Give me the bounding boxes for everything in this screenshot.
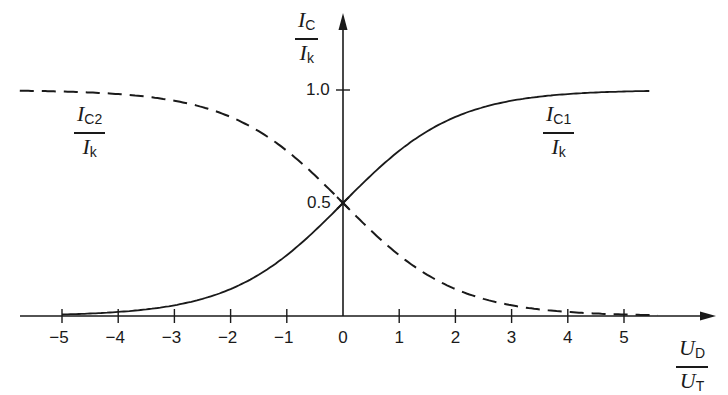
- y-tick-label-1: 1.0: [306, 80, 330, 100]
- y-axis-arrow-icon: [339, 13, 348, 30]
- x-tick-label: −1: [274, 328, 293, 347]
- curve2-label: IC2 Ik: [74, 102, 105, 164]
- x-tick-label: 0: [338, 328, 347, 347]
- y-axis-label: IC Ik: [295, 8, 318, 70]
- x-tick-label: 4: [563, 328, 572, 347]
- x-tick-label: 5: [619, 328, 628, 347]
- x-tick-label: −3: [162, 328, 181, 347]
- x-tick-label: 2: [451, 328, 460, 347]
- x-tick-label: 1: [394, 328, 403, 347]
- curve1-label: IC1 Ik: [543, 102, 574, 164]
- x-tick-label: 3: [507, 328, 516, 347]
- x-tick-labels: −5−4−3−2−1012345: [49, 328, 628, 347]
- y-tick-label-05: 0.5: [307, 193, 331, 213]
- x-axis-label: UD UT: [676, 336, 708, 395]
- x-axis-arrow-icon: [700, 312, 716, 321]
- x-tick-label: −4: [106, 328, 125, 347]
- x-tick-label: −2: [218, 328, 237, 347]
- x-tick-label: −5: [49, 328, 68, 347]
